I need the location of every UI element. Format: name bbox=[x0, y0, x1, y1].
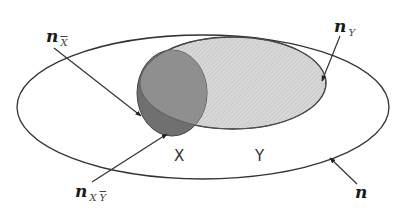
label-subscript: X bbox=[60, 37, 67, 48]
label-n-main: n bbox=[355, 182, 367, 202]
label-n-x-bar: nX bbox=[46, 26, 68, 46]
label-subscript: Y bbox=[348, 27, 355, 38]
set-y-label: Y bbox=[255, 147, 264, 165]
label-n-main: n bbox=[46, 26, 58, 46]
label-subscript-x: X bbox=[89, 192, 96, 203]
arrow-n-total bbox=[330, 158, 357, 184]
set-x-label: X bbox=[174, 147, 184, 165]
label-n-total: n bbox=[355, 182, 367, 202]
label-subscript-y-bar: Y bbox=[100, 192, 107, 203]
label-n-main: n bbox=[75, 181, 87, 201]
label-n-main: n bbox=[334, 16, 346, 36]
label-n-y: nY bbox=[334, 16, 355, 36]
label-n-x-y-bar: nXY bbox=[75, 181, 106, 201]
